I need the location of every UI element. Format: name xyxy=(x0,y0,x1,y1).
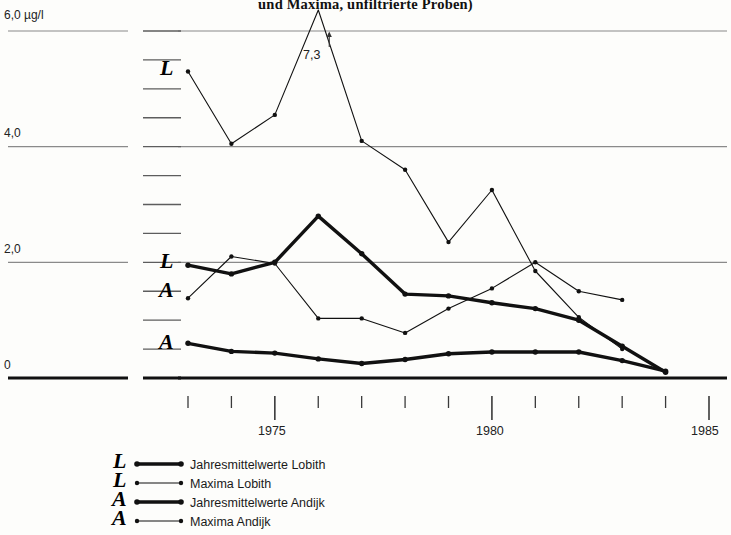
hand-mark-andijk-mean-axis: A xyxy=(159,331,174,353)
series-point-3-1980 xyxy=(490,286,494,290)
series-point-3-1979 xyxy=(446,306,450,310)
series-point-1-1979 xyxy=(446,240,450,244)
series-point-1-1978 xyxy=(403,168,407,172)
series-point-1-1982 xyxy=(577,315,581,319)
series-point-1-1980 xyxy=(490,188,494,192)
hand-mark-legend-4: A xyxy=(112,507,127,529)
hand-mark-andijk-max-axis: A xyxy=(159,279,174,301)
chart-figure: und Maxima, unfiltrierte Proben) 6,0 µg/… xyxy=(0,0,731,535)
legend-item-label-3: Maxima Andijk xyxy=(190,515,271,529)
legend-swatch-dot-end-3 xyxy=(179,519,183,523)
series-point-0-1978 xyxy=(402,291,407,296)
series-point-3-1973 xyxy=(186,296,190,300)
series-point-2-1983 xyxy=(620,358,625,363)
series-point-3-1974 xyxy=(229,254,233,258)
series-point-0-1980 xyxy=(489,300,494,305)
legend-item-label-0: Jahresmittelwerte Lobith xyxy=(190,458,325,472)
series-point-0-1979 xyxy=(446,293,451,298)
series-point-1-1973 xyxy=(186,69,190,73)
series-point-2-1973 xyxy=(185,341,190,346)
series-point-2-1984 xyxy=(663,368,668,373)
series-line-1 xyxy=(188,10,622,349)
legend-item-label-1: Maxima Lobith xyxy=(190,477,271,491)
legend-swatch-dot-end-2 xyxy=(178,499,184,505)
series-point-3-1977 xyxy=(360,316,364,320)
y-tick-label-6: 6,0 µg/l xyxy=(4,8,44,22)
series-point-1-1975 xyxy=(273,113,277,117)
series-point-3-1978 xyxy=(403,331,407,335)
legend-swatch-dot-start-0 xyxy=(134,461,140,467)
y-tick-label-2: 2,0 xyxy=(4,242,21,256)
peak-annotation-label: 7,3 xyxy=(303,48,320,62)
legend-swatch-dot-start-2 xyxy=(134,499,140,505)
series-2 xyxy=(185,341,668,374)
series-point-1-1974 xyxy=(229,142,233,146)
series-point-3-1975 xyxy=(273,261,277,265)
legend-swatch-dot-start-3 xyxy=(135,519,139,523)
y-tick-label-4: 4,0 xyxy=(4,126,21,140)
series-point-2-1982 xyxy=(576,349,581,354)
series-point-3-1976 xyxy=(316,316,320,320)
y-tick-label-0: 0 xyxy=(4,358,11,372)
series-point-0-1977 xyxy=(359,251,364,256)
series-point-3-1981 xyxy=(533,260,537,264)
series-point-0-1981 xyxy=(533,306,538,311)
series-1 xyxy=(186,10,625,351)
plot-canvas xyxy=(0,0,731,535)
peak-annotation-arrow-head xyxy=(327,32,332,38)
x-tick-label-1975: 1975 xyxy=(258,424,286,438)
legend-swatch-dot-end-1 xyxy=(179,481,183,485)
series-point-2-1978 xyxy=(402,357,407,362)
series-point-1-1977 xyxy=(360,139,364,143)
series-point-2-1981 xyxy=(533,349,538,354)
legend-swatch-dot-end-0 xyxy=(178,461,184,467)
legend-swatch-2 xyxy=(134,499,184,505)
series-point-1-1983 xyxy=(620,347,624,351)
series-point-3-1982 xyxy=(577,289,581,293)
series-point-2-1977 xyxy=(359,361,364,366)
series-point-1-1981 xyxy=(533,269,537,273)
series-point-3-1983 xyxy=(620,298,624,302)
hand-mark-lobith-max-axis: L xyxy=(160,57,173,79)
series-point-2-1974 xyxy=(229,349,234,354)
series-point-0-1973 xyxy=(185,263,190,268)
series-point-2-1976 xyxy=(316,356,321,361)
x-tick-label-1985: 1985 xyxy=(691,424,719,438)
x-tick-label-1980: 1980 xyxy=(476,424,504,438)
hand-mark-lobith-mean-axis: L xyxy=(160,250,173,272)
series-point-2-1979 xyxy=(446,351,451,356)
series-line-2 xyxy=(188,343,666,371)
series-point-2-1980 xyxy=(489,349,494,354)
series-point-0-1974 xyxy=(229,271,234,276)
legend-swatch-dot-start-1 xyxy=(135,481,139,485)
legend-swatch-1 xyxy=(135,481,183,485)
legend-swatch-0 xyxy=(134,461,184,467)
legend-item-label-2: Jahresmittelwerte Andijk xyxy=(190,496,325,510)
legend-swatch-3 xyxy=(135,519,183,523)
series-point-2-1975 xyxy=(272,350,277,355)
series-point-0-1976 xyxy=(316,213,321,218)
